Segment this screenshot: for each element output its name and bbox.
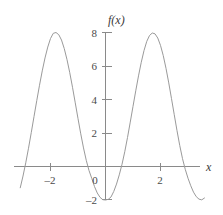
plot-area: –2 0 2 –2 2 4 6 8 f(x) x [0,0,223,215]
x-axis-group [14,163,200,171]
x-tick-label-2: 2 [157,174,163,186]
y-tick-label-2: 2 [92,127,98,139]
y-axis-group [102,32,112,200]
y-axis-label: f(x) [108,13,125,27]
x-tick-label-minus2: –2 [44,174,56,186]
y-tick-label-6: 6 [92,60,98,72]
y-tick-label-8: 8 [92,27,98,39]
y-tick-label-4: 4 [92,94,98,106]
function-graph-figure: –2 0 2 –2 2 4 6 8 f(x) x [0,0,223,215]
x-axis-label: x [205,160,212,174]
y-tick-label-minus2: –2 [85,194,97,206]
x-tick-label-0: 0 [92,174,98,186]
